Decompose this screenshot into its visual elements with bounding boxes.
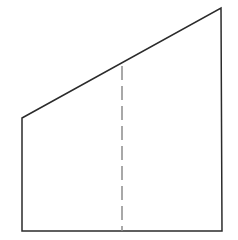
geometric-figure [0,0,238,240]
figure-canvas [0,0,238,240]
